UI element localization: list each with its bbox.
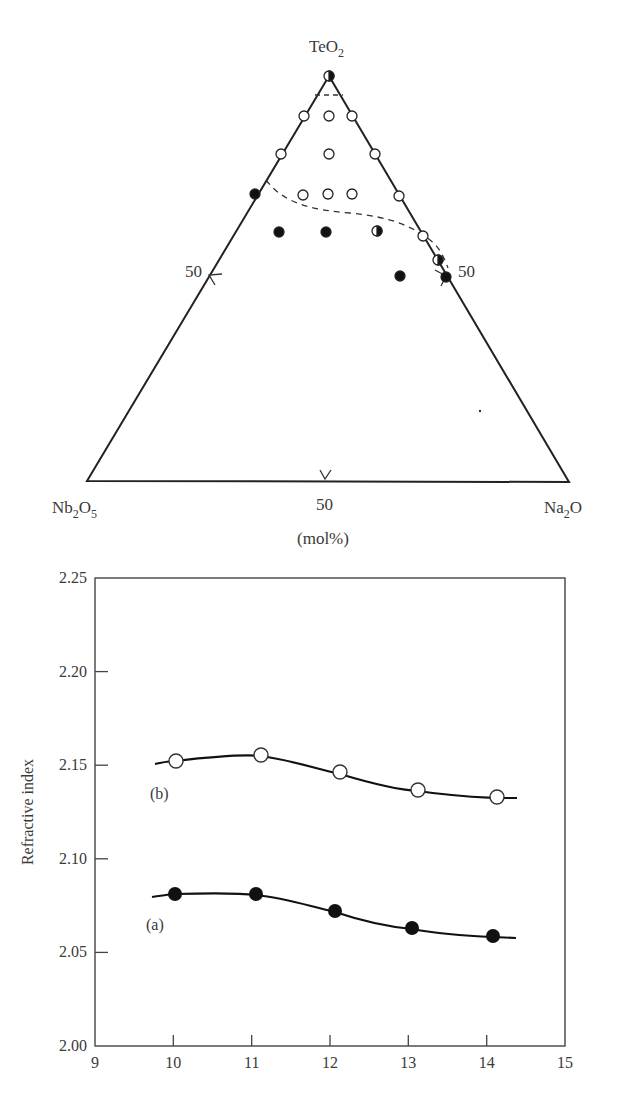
y-tick-label: 2.00 bbox=[59, 1037, 87, 1054]
series-b: (b) bbox=[150, 748, 517, 804]
y-tick-label: 2.20 bbox=[59, 663, 87, 680]
ternary-triangle bbox=[87, 76, 569, 482]
data-point-open bbox=[333, 765, 347, 779]
y-tick-labels: 2.00 2.05 2.10 2.15 2.20 2.25 bbox=[59, 569, 87, 1054]
x-tick-label: 15 bbox=[557, 1054, 573, 1071]
ternary-points bbox=[250, 71, 451, 282]
x-tick-label: 14 bbox=[479, 1054, 495, 1071]
x-tick-label: 9 bbox=[91, 1054, 99, 1071]
y-tick-label: 2.15 bbox=[59, 756, 87, 773]
data-point-filled bbox=[249, 887, 263, 901]
vertex-label-teo2: TeO2 bbox=[309, 37, 344, 60]
y-tick-label: 2.25 bbox=[59, 569, 87, 586]
point-half-filled bbox=[324, 71, 334, 81]
x-tick-label: 12 bbox=[322, 1054, 338, 1071]
point-open bbox=[323, 189, 333, 199]
plot-frame bbox=[95, 578, 565, 1046]
tick-marks bbox=[209, 270, 446, 479]
point-filled bbox=[250, 189, 260, 199]
axis-unit-label: (mol%) bbox=[297, 529, 349, 548]
data-point-open bbox=[169, 754, 183, 768]
data-point-filled bbox=[486, 929, 500, 943]
x-tick-label: 13 bbox=[400, 1054, 416, 1071]
point-filled bbox=[441, 272, 451, 282]
point-open bbox=[324, 149, 334, 159]
series-a-label: (a) bbox=[146, 916, 164, 934]
point-half-filled bbox=[372, 226, 382, 236]
point-open bbox=[298, 190, 308, 200]
x-tick-label: 10 bbox=[165, 1054, 181, 1071]
line-chart: 2.00 2.05 2.10 2.15 2.20 2.25 Refractive… bbox=[19, 569, 573, 1071]
data-point-open bbox=[411, 783, 425, 797]
point-filled bbox=[321, 227, 331, 237]
point-filled bbox=[395, 271, 405, 281]
point-open bbox=[370, 149, 380, 159]
x-axis bbox=[173, 1035, 486, 1046]
x-tick-label: 11 bbox=[244, 1054, 259, 1071]
point-open bbox=[418, 231, 428, 241]
y-axis-title: Refractive index bbox=[19, 759, 36, 865]
data-point-filled bbox=[405, 921, 419, 935]
data-point-open bbox=[254, 748, 268, 762]
y-axis bbox=[95, 672, 108, 953]
tick-label-bottom-50: 50 bbox=[316, 495, 333, 514]
series-b-label: (b) bbox=[150, 785, 169, 803]
tick-label-right-50: 50 bbox=[458, 262, 475, 281]
tick-label-left-50: 50 bbox=[185, 262, 202, 281]
y-tick-label: 2.10 bbox=[59, 850, 87, 867]
point-open bbox=[394, 191, 404, 201]
stray-dot bbox=[479, 410, 481, 412]
point-half-filled bbox=[433, 255, 443, 265]
data-point-filled bbox=[168, 887, 182, 901]
point-open bbox=[324, 111, 334, 121]
data-point-filled bbox=[328, 904, 342, 918]
point-open bbox=[276, 149, 286, 159]
point-open bbox=[347, 111, 357, 121]
vertex-label-nb2o5: Nb2O5 bbox=[52, 498, 97, 521]
y-tick-label: 2.05 bbox=[59, 943, 87, 960]
vertex-label-na2o: Na2O bbox=[544, 498, 582, 521]
data-point-open bbox=[490, 790, 504, 804]
point-filled bbox=[274, 227, 284, 237]
point-open bbox=[347, 189, 357, 199]
ternary-diagram: TeO2 Nb2O5 Na2O 50 50 50 (mol%) bbox=[52, 37, 582, 548]
figure-canvas: TeO2 Nb2O5 Na2O 50 50 50 (mol%) bbox=[0, 0, 617, 1108]
point-open bbox=[299, 111, 309, 121]
x-tick-labels: 9 10 11 12 13 14 15 bbox=[91, 1054, 573, 1071]
series-a: (a) bbox=[146, 887, 516, 943]
